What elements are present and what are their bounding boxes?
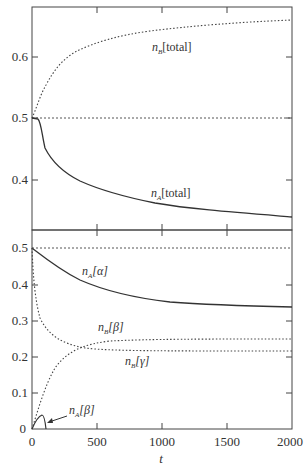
bottom-panel: 0.5 0.4 0.3 0.2 0.1 0 0 500 1000 1500 20… xyxy=(12,230,303,466)
nB-beta-label: nB[β] xyxy=(98,320,124,336)
nA-alpha-curve xyxy=(32,248,292,307)
top-ytick-0.4: 0.4 xyxy=(12,172,29,187)
nB-gamma-curve xyxy=(32,248,292,351)
nA-total-curve xyxy=(32,118,292,217)
xtick-1500: 1500 xyxy=(214,434,240,449)
bottom-plot-frame xyxy=(32,230,292,429)
bottom-ytick-0.5: 0.5 xyxy=(12,240,28,255)
bottom-ytick-0.2: 0.2 xyxy=(12,349,28,364)
xtick-1000: 1000 xyxy=(149,434,175,449)
arrowhead-icon xyxy=(47,418,53,423)
xtick-2000: 2000 xyxy=(277,434,303,449)
nB-total-label: nB[total] xyxy=(152,40,192,56)
bottom-ytick-0.3: 0.3 xyxy=(12,313,28,328)
nB-total-curve xyxy=(32,20,292,118)
top-panel: 0.6 0.5 0.4 nB[total] nA[total] xyxy=(12,7,292,230)
xtick-500: 500 xyxy=(87,434,107,449)
two-panel-line-chart: 0.6 0.5 0.4 nB[total] nA[total] 0.5 0.4 … xyxy=(0,0,306,474)
nA-total-label: nA[total] xyxy=(151,186,191,202)
bottom-ytick-0.1: 0.1 xyxy=(12,385,28,400)
bottom-ytick-0.4: 0.4 xyxy=(12,277,29,292)
top-ytick-0.6: 0.6 xyxy=(12,49,29,64)
nA-alpha-label: nA[α] xyxy=(82,264,108,280)
bottom-ytick-0: 0 xyxy=(20,421,27,436)
top-ytick-0.5: 0.5 xyxy=(12,110,28,125)
bottom-ticks xyxy=(32,230,292,429)
xtick-0: 0 xyxy=(29,434,36,449)
nB-gamma-label: nB[γ] xyxy=(125,354,150,370)
x-axis-label: t xyxy=(159,451,163,466)
nA-beta-label: nA[β] xyxy=(69,403,95,419)
